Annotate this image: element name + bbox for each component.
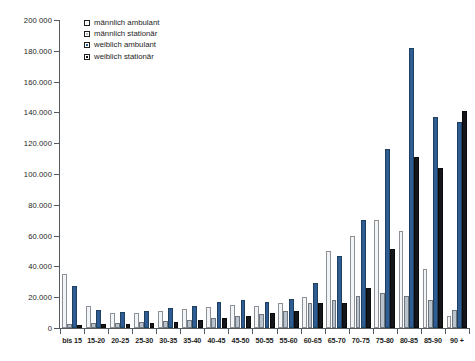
y-tick-label: 160.000 — [24, 77, 52, 86]
bar — [350, 236, 355, 328]
x-tick-mark — [301, 329, 302, 334]
y-tick-label: 80.000 — [28, 200, 52, 209]
legend-item: weiblich ambulant — [84, 40, 159, 50]
bar — [96, 310, 101, 328]
bar — [91, 323, 96, 328]
bar — [134, 313, 139, 328]
y-tick-label: 140.000 — [24, 108, 52, 117]
bar-chart: 200 000180.000160.000140.000120.000100.0… — [0, 0, 475, 361]
bar — [390, 249, 395, 328]
x-axis-line — [59, 328, 470, 329]
x-tick-label: bis 15 — [62, 336, 82, 345]
y-tick-label: 0 — [48, 324, 52, 333]
x-tick-label: 60-65 — [304, 336, 322, 345]
x-tick-mark — [156, 329, 157, 334]
bar — [308, 303, 313, 328]
bar — [110, 313, 115, 328]
x-tick-mark — [445, 329, 446, 334]
bar — [278, 303, 283, 328]
bar — [270, 313, 275, 328]
bar — [139, 322, 144, 328]
legend-label: weiblich stationär — [94, 53, 154, 61]
bar — [423, 269, 428, 328]
bar — [302, 297, 307, 328]
bar — [246, 316, 251, 328]
legend-item: männlich stationär — [84, 29, 159, 39]
bar — [283, 311, 288, 328]
bar — [192, 306, 197, 328]
legend-label: männlich ambulant — [94, 19, 159, 27]
bar — [241, 300, 246, 328]
bar — [313, 283, 318, 328]
bar — [182, 309, 187, 328]
x-tick-mark — [397, 329, 398, 334]
y-tick-label: 180.000 — [24, 46, 52, 55]
bar — [230, 305, 235, 328]
bar — [326, 251, 331, 328]
bar — [187, 320, 192, 328]
y-tick-label: 200 000 — [24, 16, 52, 25]
bar — [457, 122, 462, 328]
x-tick-label: 30-35 — [159, 336, 177, 345]
bar — [399, 231, 404, 328]
bar — [452, 310, 457, 328]
bar — [356, 296, 361, 328]
x-tick-mark — [204, 329, 205, 334]
bar — [158, 311, 163, 328]
x-tick-mark — [469, 329, 470, 334]
bar — [404, 296, 409, 328]
bar — [120, 312, 125, 328]
x-tick-mark — [84, 329, 85, 334]
x-tick-label: 20-25 — [111, 336, 129, 345]
bar — [86, 306, 91, 328]
x-tick-label: 80-85 — [400, 336, 418, 345]
legend-swatch-icon — [84, 20, 90, 26]
x-tick-label: 65-70 — [328, 336, 346, 345]
bar — [361, 220, 366, 328]
x-tick-label: 15-20 — [87, 336, 105, 345]
bar — [115, 323, 120, 328]
bar — [222, 318, 227, 328]
bar — [462, 111, 467, 328]
bar — [259, 314, 264, 328]
bar — [380, 293, 385, 328]
legend-label: männlich stationär — [94, 30, 157, 38]
bar — [174, 322, 179, 328]
bar — [77, 325, 82, 328]
bar — [342, 303, 347, 328]
bar — [438, 168, 443, 328]
bar — [433, 117, 438, 328]
bar — [217, 302, 222, 328]
x-tick-label: 35-40 — [183, 336, 201, 345]
bar — [337, 256, 342, 328]
x-tick-mark — [228, 329, 229, 334]
bar — [101, 324, 106, 328]
x-tick-label: 75-80 — [376, 336, 394, 345]
x-tick-label: 85-90 — [424, 336, 442, 345]
x-tick-label: 55-60 — [280, 336, 298, 345]
x-tick-mark — [60, 329, 61, 334]
x-tick-mark — [108, 329, 109, 334]
x-tick-mark — [252, 329, 253, 334]
x-tick-label: 90 + — [450, 336, 464, 345]
bar — [254, 306, 259, 328]
x-tick-mark — [180, 329, 181, 334]
chart-legend: männlich ambulantmännlich stationärweibl… — [84, 18, 159, 63]
x-tick-mark — [421, 329, 422, 334]
bar — [67, 324, 72, 328]
bar — [150, 323, 155, 328]
bar — [62, 274, 67, 328]
x-tick-mark — [325, 329, 326, 334]
bar — [235, 316, 240, 328]
bar — [72, 286, 77, 328]
bar — [206, 307, 211, 328]
y-tick-label: 60.000 — [28, 231, 52, 240]
bar — [385, 149, 390, 328]
y-tick-label: 40.000 — [28, 262, 52, 271]
bar — [211, 318, 216, 328]
legend-item: weiblich stationär — [84, 52, 159, 62]
x-tick-label: 25-30 — [135, 336, 153, 345]
legend-swatch-icon — [84, 42, 90, 48]
legend-item: männlich ambulant — [84, 18, 159, 28]
x-tick-mark — [349, 329, 350, 334]
